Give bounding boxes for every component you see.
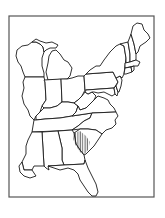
state-wisconsin	[16, 42, 44, 77]
state-michigan-lp	[46, 50, 72, 80]
state-new-york	[86, 44, 126, 78]
map-svg	[0, 0, 165, 218]
state-new-jersey	[116, 76, 122, 92]
state-florida	[48, 160, 98, 196]
state-rhode-island	[131, 66, 134, 72]
state-mississippi	[22, 132, 44, 170]
state-pennsylvania	[84, 72, 118, 90]
eastern-us-map	[0, 0, 165, 218]
